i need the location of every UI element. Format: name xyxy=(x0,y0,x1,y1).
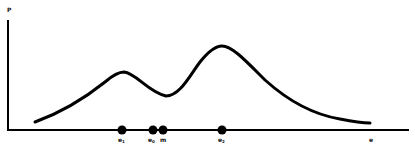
marker-e2 xyxy=(218,126,227,135)
marker-m xyxy=(159,126,168,135)
y-axis-label: P xyxy=(7,7,11,13)
label-m: m xyxy=(160,137,166,143)
distribution-diagram xyxy=(0,0,415,147)
label-e1: e1 xyxy=(118,137,125,144)
label-e2: e2 xyxy=(218,137,225,144)
label-e0: e0 xyxy=(148,137,155,144)
distribution-curve xyxy=(35,46,370,123)
x-axis-label: e xyxy=(369,137,373,143)
marker-e0 xyxy=(149,126,158,135)
marker-e1 xyxy=(118,126,127,135)
